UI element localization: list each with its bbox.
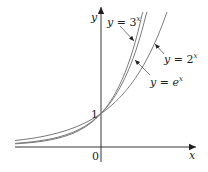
origin-label: 0	[92, 150, 99, 163]
pointer-2x	[155, 44, 164, 54]
label-ex: y = ex	[149, 75, 183, 89]
curve-ex	[15, 12, 147, 143]
label-2x: y = 2x	[163, 52, 197, 66]
curve-2x	[15, 12, 167, 141]
curve-3x	[15, 12, 143, 144]
pointer-ex	[135, 60, 150, 75]
curves-group	[15, 12, 167, 144]
y-axis-label: y	[90, 11, 98, 24]
y-tick-1-label: 1	[91, 108, 98, 121]
exponential-chart: y x 0 1 y = 3x y = ex y = 2x	[0, 0, 208, 172]
label-3x: y = 3x	[106, 15, 140, 29]
x-axis-label: x	[189, 149, 196, 162]
